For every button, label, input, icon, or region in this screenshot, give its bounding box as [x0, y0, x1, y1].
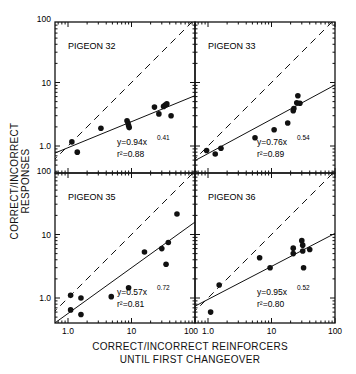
data-point: [78, 295, 84, 301]
data-point: [307, 247, 313, 253]
fit-equation: y=0.57x: [117, 287, 148, 297]
data-point: [78, 312, 84, 318]
y-axis-label: CORRECT/INCORRECT RESPONSES: [9, 101, 31, 261]
data-point: [68, 293, 74, 299]
tick-label: 1.0: [39, 141, 51, 151]
data-point: [156, 111, 162, 117]
data-point: [204, 148, 210, 154]
data-point: [159, 246, 165, 252]
fit-equation: y=0.95x: [257, 287, 288, 297]
data-point: [69, 139, 75, 145]
data-point: [164, 101, 170, 107]
panel-title: PIGEON 36: [208, 192, 256, 202]
fit-line: [35, 214, 206, 337]
fit-exponent: 0.72: [157, 284, 170, 291]
tick-label: 100: [328, 326, 342, 336]
tick-label: 1.0: [39, 293, 51, 303]
tick-label: 10: [127, 326, 137, 336]
r-squared: r²=0.81: [117, 299, 144, 309]
data-point: [271, 127, 277, 133]
fit-exponent: 0.41: [157, 134, 170, 141]
data-point: [291, 106, 297, 112]
data-point: [163, 261, 169, 267]
figure-canvas: PIGEON 32y=0.94x0.41r²=0.881.010100PIGEO…: [0, 0, 356, 374]
panel-pigeon-35: PIGEON 35y=0.57x0.72r²=0.81: [35, 160, 206, 338]
tick-label: 10: [267, 326, 277, 336]
panel-title: PIGEON 35: [68, 192, 116, 202]
data-point: [295, 93, 301, 99]
tick-label: 10: [42, 78, 52, 88]
data-point: [290, 251, 296, 257]
panel-title: PIGEON 32: [68, 41, 116, 51]
data-point: [267, 265, 273, 271]
tick-label: 1.0: [202, 326, 214, 336]
data-point: [216, 282, 222, 288]
panel-pigeon-33: PIGEON 33y=0.76x0.54r²=0.89: [175, 8, 346, 179]
fit-exponent: 0.54: [297, 134, 310, 141]
panel-pigeon-32: PIGEON 32y=0.94x0.41r²=0.88: [35, 8, 206, 179]
data-point: [174, 211, 180, 217]
r-squared: r²=0.80: [257, 299, 284, 309]
panel-title: PIGEON 33: [208, 41, 256, 51]
r-squared: r²=0.89: [257, 149, 284, 159]
r-squared: r²=0.88: [117, 149, 144, 159]
tick-label: 10: [42, 230, 52, 240]
data-point: [301, 265, 307, 271]
data-point: [208, 309, 214, 315]
data-point: [285, 120, 291, 126]
data-point: [142, 249, 148, 255]
data-point: [297, 101, 303, 107]
fit-equation: y=0.76x: [257, 137, 288, 147]
data-point: [68, 307, 74, 313]
data-point: [212, 151, 218, 157]
tick-label: 100: [37, 14, 51, 24]
data-point: [168, 113, 174, 119]
data-point: [290, 245, 296, 251]
data-point: [300, 242, 306, 248]
data-point: [218, 145, 224, 151]
data-point: [300, 248, 306, 254]
tick-label: 1.0: [62, 326, 74, 336]
fit-equation: y=0.94x: [117, 137, 148, 147]
data-point: [257, 255, 263, 261]
data-point: [152, 104, 158, 110]
x-axis-label-line2: UNTIL FIRST CHANGEOVER: [40, 354, 340, 365]
tick-label: 100: [37, 166, 51, 176]
tick-label: 100: [184, 326, 198, 336]
data-point: [126, 125, 132, 131]
data-point: [166, 240, 172, 246]
data-point: [98, 125, 104, 131]
fit-exponent: 0.52: [297, 284, 310, 291]
data-point: [74, 149, 80, 155]
x-axis-label-line1: CORRECT/INCORRECT REINFORCERS: [40, 341, 340, 352]
data-point: [108, 294, 114, 300]
panel-pigeon-36: PIGEON 36y=0.95x0.52r²=0.80: [175, 160, 346, 331]
